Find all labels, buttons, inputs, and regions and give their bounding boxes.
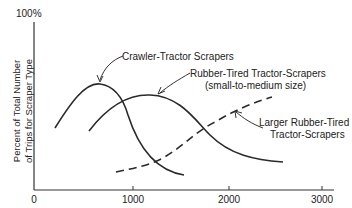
x-tick-0: 0 <box>24 194 44 205</box>
label-small-to-medium-size: (small-to-medium size) <box>205 80 306 91</box>
label-rubber-tired-tractor-scrapers: Rubber-Tired Tractor-Scrapers <box>190 68 326 79</box>
rubber-tired-pointer-arrow <box>160 73 190 93</box>
crawler-pointer-arrow <box>100 56 123 80</box>
series-larger-rubber-tired <box>116 97 272 172</box>
chart-canvas <box>0 0 352 208</box>
label-crawler-tractor-scrapers: Crawler-Tractor Scrapers <box>122 51 234 62</box>
y-axis-top-label: 100% <box>16 8 42 19</box>
x-tick-1000: 1000 <box>113 194 153 205</box>
x-tick-3000: 3000 <box>302 194 342 205</box>
y-axis-title: Percent of Total Number of Trips for Scr… <box>11 46 35 176</box>
label-larger-rubber-tired: Larger Rubber-Tired <box>259 117 349 128</box>
x-tick-2000: 2000 <box>209 194 249 205</box>
series-rubber-tired-small-medium <box>89 95 283 162</box>
label-tractor-scrapers: Tractor-Scrapers <box>270 129 345 140</box>
